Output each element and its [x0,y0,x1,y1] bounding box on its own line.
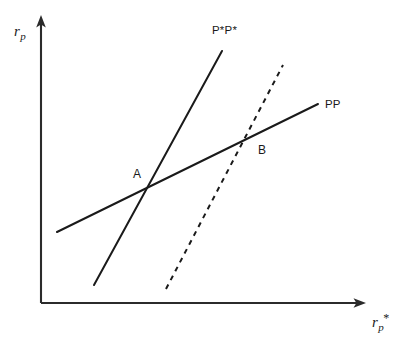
curve-label-pstar-pstar: P*P* [212,25,237,37]
x-axis-label-superscript: * [383,311,389,325]
curve-pstar-pstar-shifted [166,65,283,289]
curve-label-pp: PP [325,99,341,111]
y-axis-label: rp [14,24,26,42]
x-axis-label: rp* [372,312,389,333]
figure-container: rp rp* P*P* PP A B [0,0,404,341]
y-axis-label-subscript: p [20,30,26,42]
point-label-b: B [258,144,266,156]
point-label-a: A [133,168,141,180]
curve-pstar-pstar [94,51,222,285]
x-axis-label-base: r [372,314,378,330]
curve-pp [57,104,318,232]
plot-canvas [0,0,404,341]
y-axis-label-base: r [14,23,20,39]
